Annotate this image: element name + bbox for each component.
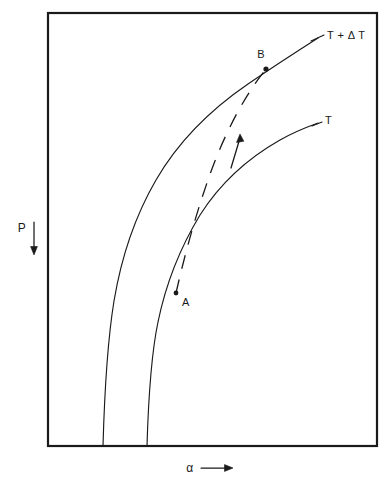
upper-isotherm-label: T + Δ T: [327, 29, 365, 41]
plot-frame: [48, 13, 377, 446]
x-axis-label: α: [186, 461, 193, 475]
point-a-marker: [174, 291, 179, 296]
arrow-down-icon: [31, 222, 38, 255]
y-axis-label: P: [18, 221, 26, 235]
point-b-label: B: [257, 48, 265, 60]
lower-isotherm-label: T: [325, 114, 332, 126]
point-a-label: A: [182, 296, 190, 308]
isotherm-diagram: A B T + Δ T T P α: [0, 0, 391, 488]
point-b-marker: [263, 66, 268, 71]
arrow-right-icon: [201, 465, 233, 472]
